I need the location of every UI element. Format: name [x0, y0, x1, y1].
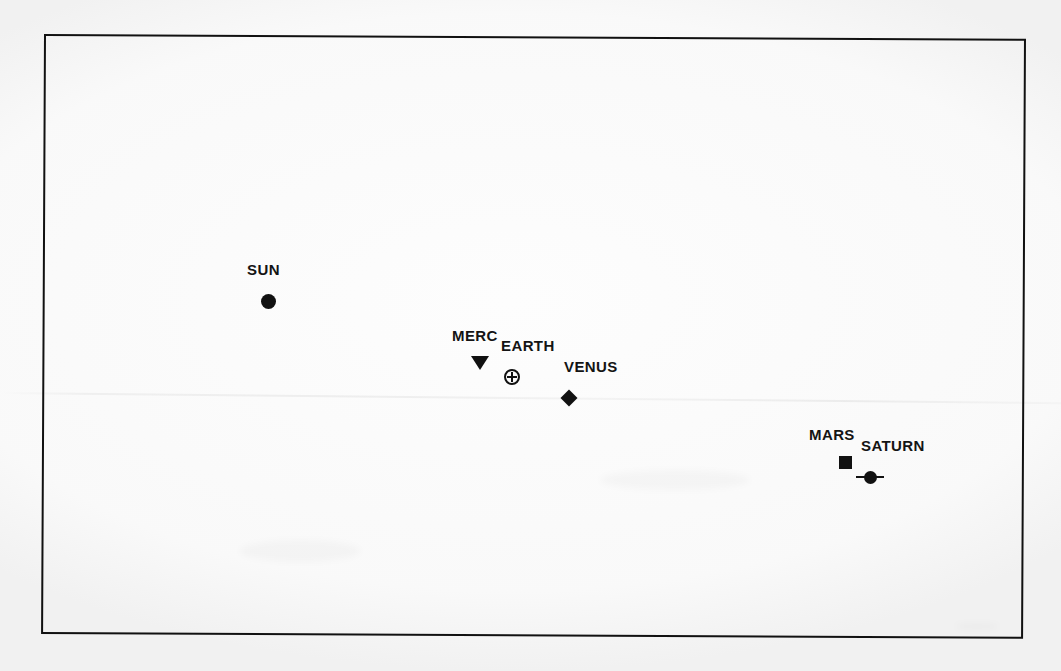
- marker-earth-circle-with-cross-icon: [504, 369, 520, 385]
- marker-saturn-filled-circle-icon: [864, 471, 877, 484]
- marker-mars-filled-square-icon: [839, 456, 852, 469]
- marker-venus-filled-diamond-icon: [561, 390, 578, 407]
- plot-area: SUN MERC EARTH VENUS MARS SATURN: [0, 0, 1061, 671]
- marker-sun-filled-circle-icon: [261, 294, 276, 309]
- label-sun: SUN: [247, 262, 280, 277]
- label-saturn: SATURN: [861, 438, 925, 453]
- marker-mercury-filled-triangle-down-icon: [471, 356, 489, 370]
- figure-page: SUN MERC EARTH VENUS MARS SATURN: [0, 0, 1061, 671]
- label-mercury: MERC: [452, 328, 498, 343]
- label-mars: MARS: [809, 427, 855, 442]
- label-earth: EARTH: [501, 338, 555, 353]
- label-venus: VENUS: [564, 359, 618, 374]
